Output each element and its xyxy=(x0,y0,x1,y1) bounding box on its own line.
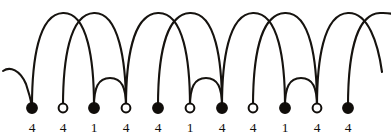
arc-beat5-to-beat6-short xyxy=(190,78,222,106)
beat-marker-6 xyxy=(217,103,227,113)
throw-label-2: 1 xyxy=(91,120,98,135)
beat-marker-3 xyxy=(122,104,131,113)
throw-label-1: 4 xyxy=(60,120,67,135)
throw-label-0: 4 xyxy=(29,120,36,135)
siteswap-canvas: 4 4 1 4 4 1 4 4 1 4 4 xyxy=(0,0,391,138)
throw-label-group: 4 4 1 4 4 1 4 4 1 4 4 xyxy=(29,120,352,135)
throw-label-7: 4 xyxy=(250,120,257,135)
arc-incoming-left-partial xyxy=(3,69,32,106)
throw-label-8: 1 xyxy=(282,120,289,135)
throw-label-9: 4 xyxy=(314,120,321,135)
throw-label-3: 4 xyxy=(123,120,130,135)
beat-marker-0 xyxy=(27,103,37,113)
throw-label-4: 4 xyxy=(155,120,162,135)
arc-beat9-to-offscreen-right xyxy=(317,13,382,106)
beat-marker-9 xyxy=(313,104,322,113)
beat-marker-10 xyxy=(343,103,353,113)
beat-marker-8 xyxy=(280,103,290,113)
beat-marker-group xyxy=(27,103,353,113)
beat-marker-4 xyxy=(153,103,163,113)
throw-label-10: 4 xyxy=(345,120,352,135)
beat-marker-1 xyxy=(59,104,68,113)
beat-marker-2 xyxy=(89,103,99,113)
throw-label-5: 1 xyxy=(187,120,194,135)
arc-beat2-to-beat3-short xyxy=(94,78,126,106)
beat-marker-5 xyxy=(186,104,195,113)
throw-label-6: 4 xyxy=(219,120,226,135)
beat-marker-7 xyxy=(249,104,258,113)
arc-group-tall xyxy=(3,13,391,106)
siteswap-diagram-figure: 4 4 1 4 4 1 4 4 1 4 4 xyxy=(0,0,391,138)
arc-beat8-to-beat9-short xyxy=(285,78,317,106)
